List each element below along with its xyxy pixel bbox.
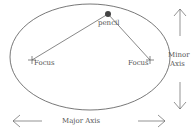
minor-axis-arrow-up xyxy=(174,9,186,36)
pencil-label: pencil xyxy=(98,19,120,27)
major-axis-label: Major Axis xyxy=(62,117,100,125)
major-axis-arrow-right xyxy=(138,115,165,127)
string-left xyxy=(32,14,108,60)
minor-axis-label-2: Axis xyxy=(170,60,185,68)
ellipse xyxy=(10,4,170,110)
focus-right-label: Focus xyxy=(128,59,149,67)
focus-left-label: Focus xyxy=(34,59,55,67)
minor-axis-label-1: Minor xyxy=(168,51,189,59)
major-axis-arrow-left xyxy=(13,115,42,127)
pencil-icon xyxy=(105,11,111,17)
minor-axis-arrow-down xyxy=(174,82,186,109)
